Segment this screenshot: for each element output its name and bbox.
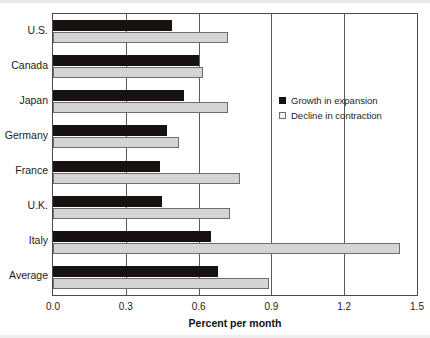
- bar-us-growth: [53, 20, 172, 31]
- x-axis-title: Percent per month: [52, 317, 418, 329]
- x-tick-0-3: 0.3: [106, 301, 146, 312]
- bar-japan-decline: [53, 102, 228, 113]
- bar-canada-decline: [53, 67, 203, 78]
- plot-area: [52, 13, 418, 296]
- bar-italy-growth: [53, 231, 211, 242]
- category-label-canada: Canada: [0, 59, 48, 71]
- legend-swatch-growth-icon: [279, 97, 286, 104]
- bar-japan-growth: [53, 90, 184, 101]
- bar-france-growth: [53, 161, 160, 172]
- legend-label: Decline in contraction: [291, 110, 382, 121]
- x-tick-1-2: 1.2: [324, 301, 364, 312]
- bar-average-growth: [53, 266, 218, 277]
- bar-germany-growth: [53, 125, 167, 136]
- category-label-italy: Italy: [0, 234, 48, 246]
- category-label-us: U.S.: [0, 24, 48, 36]
- bar-canada-growth: [53, 55, 199, 66]
- legend-swatch-decline-icon: [279, 112, 286, 119]
- legend-label: Growth in expansion: [291, 95, 378, 106]
- bar-italy-decline: [53, 243, 400, 254]
- x-tick-0-6: 0.6: [179, 301, 219, 312]
- bar-average-decline: [53, 278, 269, 289]
- category-label-france: France: [0, 164, 48, 176]
- x-tick-0-0: 0.0: [33, 301, 73, 312]
- category-label-germany: Germany: [0, 129, 48, 141]
- bar-france-decline: [53, 173, 240, 184]
- bar-germany-decline: [53, 137, 179, 148]
- category-label-japan: Japan: [0, 94, 48, 106]
- bar-chart: U.S.CanadaJapanGermanyFranceU.K.ItalyAve…: [0, 0, 430, 338]
- category-label-average: Average: [0, 269, 48, 281]
- bar-uk-decline: [53, 208, 230, 219]
- legend-item-1: Growth in expansion: [279, 93, 411, 108]
- chart-legend: Growth in expansionDecline in contractio…: [279, 93, 411, 123]
- bar-uk-growth: [53, 196, 162, 207]
- x-tick-1-5: 1.5: [397, 301, 430, 312]
- legend-item-2: Decline in contraction: [279, 108, 411, 123]
- bar-us-decline: [53, 32, 228, 43]
- x-tick-0-9: 0.9: [251, 301, 291, 312]
- scan-edge-top: [0, 0, 430, 3]
- category-label-uk: U.K.: [0, 199, 48, 211]
